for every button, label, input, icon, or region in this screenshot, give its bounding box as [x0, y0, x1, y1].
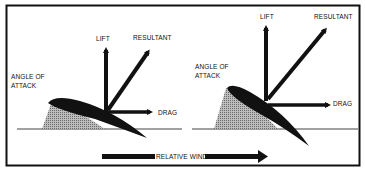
relative-wind-bar-left: [102, 154, 155, 159]
relative-wind-arrow: RELATIVE WIND: [102, 150, 268, 163]
left-angle-of-attack-label-1: ANGLE OF: [11, 73, 45, 80]
right-angle-of-attack-label-2: ATTACK: [195, 72, 221, 79]
left-panel: LIFT RESULTANT ANGLE OF ATTACK DRAG: [11, 34, 182, 138]
relative-wind-bar-right: [205, 154, 258, 159]
left-drag-label: DRAG: [158, 109, 177, 116]
airfoil-angle-of-attack-diagram: LIFT RESULTANT ANGLE OF ATTACK DRAG LIFT…: [0, 0, 365, 175]
right-panel: LIFT RESULTANT ANGLE OF ATTACK DRAG: [192, 13, 358, 146]
relative-wind-label: RELATIVE WIND: [156, 153, 208, 160]
left-lift-label: LIFT: [96, 35, 110, 42]
left-resultant-arrow: [108, 52, 148, 110]
figure-frame: [7, 6, 360, 166]
right-lift-label: LIFT: [260, 13, 274, 20]
right-resultant-label: RESULTANT: [314, 13, 353, 20]
right-angle-of-attack-label-1: ANGLE OF: [195, 63, 229, 70]
left-resultant-label: RESULTANT: [133, 34, 172, 41]
relative-wind-arrowhead: [258, 150, 268, 163]
right-resultant-arrow: [268, 30, 325, 99]
left-angle-of-attack-label-2: ATTACK: [11, 82, 37, 89]
right-drag-label: DRAG: [333, 100, 352, 107]
